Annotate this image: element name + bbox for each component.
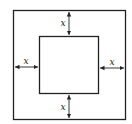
- top-gap-label: x: [60, 18, 65, 28]
- inner-square: [40, 37, 99, 94]
- right-gap-label: x: [109, 57, 114, 67]
- bottom-gap-label: x: [60, 102, 65, 112]
- left-gap-label: x: [23, 56, 28, 66]
- nested-squares-diagram: x x x x: [0, 0, 132, 124]
